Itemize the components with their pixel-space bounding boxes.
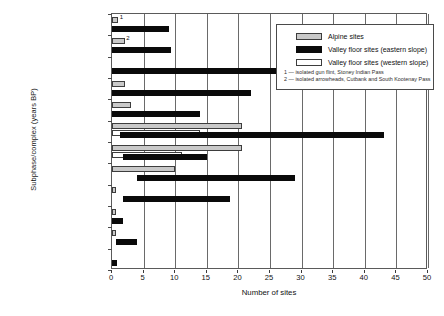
gridline (270, 14, 271, 268)
x-axis-tick-label: 40 (360, 273, 368, 282)
x-axis-tick-label: 5 (140, 273, 144, 282)
bar-eastern (112, 90, 251, 96)
y-axis-tick (108, 206, 112, 207)
bar-eastern (123, 196, 230, 202)
x-axis-tick-label: 50 (423, 273, 431, 282)
gridline (207, 14, 208, 268)
x-axis-tick-label: 30 (296, 273, 304, 282)
y-axis-tick (108, 57, 112, 58)
gridline (238, 14, 239, 268)
bar-eastern (112, 260, 117, 266)
legend-label: Valley floor sites (eastern slope) (328, 46, 427, 53)
bar-alpine (112, 38, 125, 44)
bar-eastern (123, 154, 207, 160)
bar-eastern (112, 218, 123, 224)
y-axis-tick (108, 227, 112, 228)
legend-swatch (296, 59, 322, 66)
y-axis-tick (108, 78, 112, 79)
bar-alpine (112, 209, 116, 215)
bar-eastern (120, 132, 384, 138)
bar-eastern (112, 111, 200, 117)
x-axis-tick-label: 35 (328, 273, 336, 282)
bar-eastern (112, 26, 169, 32)
bar-eastern (116, 239, 137, 245)
x-axis-tick-label: 10 (170, 273, 178, 282)
bar-footnote-marker: 1 (120, 14, 123, 20)
x-axis-tick-label: 45 (391, 273, 399, 282)
legend-footnote: 1 — isolated gun flint, Stoney Indian Pa… (284, 69, 428, 76)
y-axis-tick (108, 121, 112, 122)
legend-swatch (296, 46, 322, 53)
y-axis-tick (108, 185, 112, 186)
gridline (175, 14, 176, 268)
legend: Alpine sitesValley floor sites (eastern … (276, 24, 434, 90)
bar-alpine (112, 17, 118, 23)
x-axis-ticks: 05101520253035404550 (111, 270, 427, 284)
bar-alpine (112, 123, 242, 129)
legend-label: Valley floor sites (western slope) (328, 59, 428, 66)
y-axis-tick (108, 249, 112, 250)
bar-eastern (112, 47, 171, 53)
y-axis-tick (108, 163, 112, 164)
legend-footnotes: 1 — isolated gun flint, Stoney Indian Pa… (282, 69, 428, 83)
y-axis-tick (108, 142, 112, 143)
bar-eastern (137, 175, 295, 181)
bar-alpine (112, 230, 116, 236)
x-axis-title: Number of sites (111, 288, 427, 297)
legend-label: Alpine sites (328, 33, 364, 40)
y-axis-tick (108, 99, 112, 100)
bar-alpine (112, 81, 125, 87)
bar-alpine (112, 187, 116, 193)
legend-swatch (296, 33, 322, 40)
legend-entry: Valley floor sites (eastern slope) (282, 43, 428, 55)
bar-alpine (112, 102, 131, 108)
x-axis-tick-label: 20 (233, 273, 241, 282)
x-axis-tick-label: 15 (202, 273, 210, 282)
bar-eastern (112, 68, 292, 74)
bar-alpine (112, 166, 175, 172)
bar-chart: Subphase/complex (years BP) 100300800 / … (0, 0, 444, 316)
bar-alpine (112, 145, 242, 151)
x-axis-tick-label: 25 (265, 273, 273, 282)
x-axis-tick-label: 0 (109, 273, 113, 282)
y-axis-title: Subphase/complex (years BP) (29, 45, 38, 235)
legend-entry: Valley floor sites (western slope) (282, 56, 428, 68)
y-axis-tick (108, 14, 112, 15)
y-axis-tick (108, 35, 112, 36)
legend-entry: Alpine sites (282, 30, 428, 42)
bar-footnote-marker: 2 (126, 35, 129, 41)
legend-footnote: 2 — isolated arrowheads, Cutbank and Sou… (284, 76, 428, 83)
legend-entries: Alpine sitesValley floor sites (eastern … (282, 30, 428, 68)
